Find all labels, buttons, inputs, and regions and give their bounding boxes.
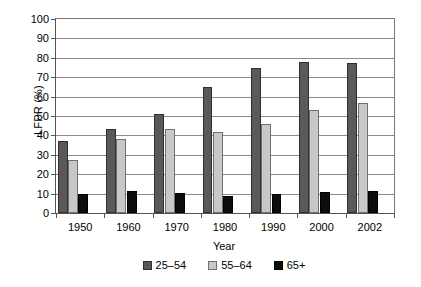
x-tick-mark (153, 213, 154, 218)
chart-legend: 25–5455–6465+ (55, 259, 393, 271)
bar (78, 194, 88, 213)
bar (261, 124, 271, 213)
x-tick-mark (346, 213, 347, 218)
bar (368, 191, 378, 213)
chart-figure: LFPR (%) 0102030405060708090100 19501960… (0, 0, 421, 287)
bar (223, 196, 233, 213)
y-tick-label: 80 (19, 52, 49, 64)
legend-swatch-icon (143, 261, 152, 270)
legend-swatch-icon (274, 261, 283, 270)
bar (309, 110, 319, 213)
bar (68, 160, 78, 213)
legend-label: 55–64 (221, 259, 252, 271)
legend-item[interactable]: 25–54 (143, 259, 187, 271)
bar (116, 139, 126, 213)
bar (358, 103, 368, 213)
bar (154, 114, 164, 213)
bar (127, 191, 137, 213)
y-tick-label: 10 (19, 188, 49, 200)
bar-group (153, 19, 201, 213)
x-tick-mark (56, 213, 57, 218)
bar (213, 132, 223, 213)
bar-group (249, 19, 297, 213)
y-tick-label: 90 (19, 32, 49, 44)
x-axis-title: Year (55, 240, 393, 252)
bar (165, 129, 175, 213)
x-tick-label: 1970 (164, 221, 188, 233)
y-tick-label: 0 (19, 207, 49, 219)
y-tick-label: 30 (19, 149, 49, 161)
bar (58, 141, 68, 213)
x-tick-label: 1980 (213, 221, 237, 233)
x-tick-label: 1990 (261, 221, 285, 233)
bar-group (346, 19, 394, 213)
legend-item[interactable]: 65+ (274, 259, 306, 271)
bar-group (201, 19, 249, 213)
bar (299, 62, 309, 213)
x-tick-label: 2002 (358, 221, 382, 233)
bar (320, 192, 330, 213)
bar (272, 194, 282, 213)
x-tick-label: 1960 (116, 221, 140, 233)
bar (106, 129, 116, 213)
bar-group (104, 19, 152, 213)
x-tick-mark (249, 213, 250, 218)
x-tick-mark (201, 213, 202, 218)
x-tick-mark (104, 213, 105, 218)
legend-swatch-icon (208, 261, 217, 270)
x-tick-label: 2000 (309, 221, 333, 233)
bar (347, 63, 357, 213)
y-tick-label: 40 (19, 129, 49, 141)
plot-area: 0102030405060708090100 19501960197019801… (55, 18, 395, 214)
y-tick-label: 50 (19, 110, 49, 122)
x-tick-mark (394, 213, 395, 218)
y-tick-label: 60 (19, 91, 49, 103)
bar (203, 87, 213, 213)
bar-group (297, 19, 345, 213)
bar-group (56, 19, 104, 213)
y-tick-label: 100 (19, 13, 49, 25)
y-tick-label: 70 (19, 71, 49, 83)
y-tick-label: 20 (19, 168, 49, 180)
x-tick-label: 1950 (68, 221, 92, 233)
x-tick-mark (297, 213, 298, 218)
bar (175, 193, 185, 213)
legend-label: 25–54 (156, 259, 187, 271)
legend-item[interactable]: 55–64 (208, 259, 252, 271)
bar (251, 68, 261, 214)
legend-label: 65+ (287, 259, 306, 271)
